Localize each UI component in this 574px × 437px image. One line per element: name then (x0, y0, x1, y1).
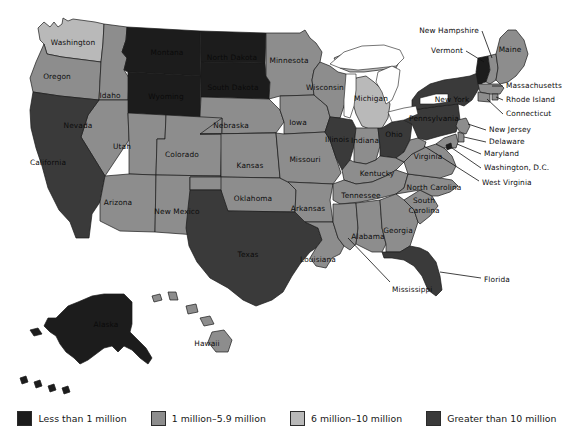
leader-line-connecticut (487, 99, 503, 114)
state-label-MO: Missouri (289, 155, 320, 164)
state-label-NH: New Hampshire (419, 26, 479, 35)
legend-swatch-lt1m (17, 411, 32, 426)
state-label-NE: Nebraska (213, 121, 249, 130)
state-label-SD: South Dakota (207, 83, 258, 92)
legend-label-gt10m: Greater than 10 million (447, 413, 556, 424)
state-label-ME: Maine (499, 45, 522, 54)
state-label-WI: Wisconsin (306, 83, 344, 92)
state-label-TN: Tennessee (340, 191, 381, 200)
state-label-KY: Kentucky (360, 169, 395, 178)
state-shape-RI[interactable] (492, 94, 498, 100)
state-label-WA: Washington (51, 38, 96, 47)
state-shape-ID[interactable] (99, 24, 129, 100)
state-label-WV: West Virginia (482, 178, 532, 187)
states-layer (20, 18, 528, 394)
state-label-UT: Utah (113, 142, 131, 151)
legend-item-lt1m[interactable]: Less than 1 million (17, 411, 126, 426)
state-label-WY: Wyoming (148, 92, 184, 101)
legend-label-lt1m: Less than 1 million (38, 413, 126, 424)
state-shape-DE[interactable] (458, 132, 464, 142)
state-label-NJ: New Jersey (489, 125, 532, 134)
state-label-LA: Louisiana (300, 255, 336, 264)
state-label-GA: Georgia (383, 226, 413, 235)
state-label-MI: Michigan (354, 94, 388, 103)
legend-item-gt10m[interactable]: Greater than 10 million (426, 411, 556, 426)
state-label-DE: Delaware (489, 137, 525, 146)
leader-line-florida (440, 272, 481, 278)
state-label-AL: Alabama (351, 232, 384, 241)
state-shape-ME[interactable] (496, 30, 528, 84)
legend-item-6to10m[interactable]: 6 million–10 million (290, 411, 402, 426)
state-shape-IN[interactable] (354, 128, 380, 164)
us-map-svg: Washington Oregon Idaho Montana North Da… (0, 0, 574, 400)
state-label-AR: Arkansas (291, 204, 326, 213)
state-label-IN: Indiana (351, 136, 379, 145)
legend-label-1to59m: 1 million–5.9 million (172, 413, 266, 424)
legend-item-1to59m[interactable]: 1 million–5.9 million (151, 411, 266, 426)
state-shape-HI[interactable] (152, 292, 232, 352)
state-label-TX: Texas (237, 250, 259, 259)
legend-swatch-gt10m (426, 411, 441, 426)
leader-line-washington-dc (452, 148, 481, 168)
state-label-OR: Oregon (43, 72, 71, 81)
state-label-NV: Nevada (64, 121, 93, 130)
state-label-OH: Ohio (385, 130, 403, 139)
state-label-NY: New York (435, 95, 470, 104)
state-label-IL: Illinois (325, 135, 349, 144)
state-label-OK: Oklahoma (234, 194, 272, 203)
state-label-AZ: Arizona (104, 198, 132, 207)
map-legend: Less than 1 million 1 million–5.9 millio… (0, 400, 574, 437)
state-label-MD: Maryland (484, 149, 519, 158)
leader-line-delaware (464, 137, 486, 142)
state-shape-CO[interactable] (156, 115, 222, 176)
state-label-MN: Minnesota (269, 56, 308, 65)
us-population-choropleth-figure: Washington Oregon Idaho Montana North Da… (0, 0, 574, 437)
state-label-AK: Alaska (94, 320, 119, 329)
leader-line-new-jersey (468, 124, 486, 130)
state-label-HI: Hawaii (194, 339, 219, 348)
state-label-NM: New Mexico (154, 207, 200, 216)
state-shape-SD[interactable] (201, 62, 270, 99)
legend-swatch-6to10m (290, 411, 305, 426)
state-shape-OK-panhandle (190, 177, 221, 190)
state-label-KS: Kansas (237, 161, 264, 170)
state-label-CO: Colorado (165, 150, 199, 159)
leader-line-maryland (457, 144, 481, 154)
leader-line-vermont (466, 51, 484, 62)
state-label-VT: Vermont (431, 46, 463, 55)
state-label-ID: Idaho (99, 91, 120, 100)
state-label-IA: Iowa (289, 118, 307, 127)
state-label-MT: Montana (151, 48, 184, 57)
state-label-NC: North Carolina (407, 183, 462, 192)
state-label-FL: Florida (484, 275, 510, 284)
state-label-VA: Virginia (414, 152, 443, 161)
legend-swatch-1to59m (151, 411, 166, 426)
state-label-PA: Pennsylvania (409, 114, 459, 123)
leader-line-new-hampshire (482, 31, 492, 58)
state-label-CA: California (30, 158, 66, 167)
state-label-SC: South (413, 196, 435, 205)
state-label-RI: Rhode Island (506, 95, 555, 104)
state-label-DC: Washington, D.C. (484, 163, 549, 172)
state-label-MS: Mississippi (392, 285, 432, 294)
state-label-MA: Massachusetts (506, 81, 562, 90)
state-label-ND: North Dakota (207, 53, 257, 62)
state-label-SC-2: Carolina (408, 206, 439, 215)
legend-label-6to10m: 6 million–10 million (311, 413, 402, 424)
state-label-CT: Connecticut (506, 109, 551, 118)
